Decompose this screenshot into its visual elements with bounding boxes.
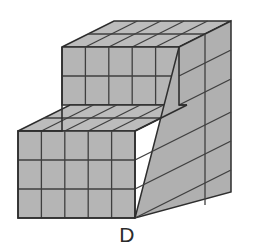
cube-stack-illustration [0, 0, 254, 250]
figure-canvas: D [0, 0, 254, 250]
cube-stack-final [0, 0, 254, 250]
